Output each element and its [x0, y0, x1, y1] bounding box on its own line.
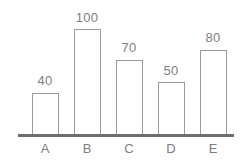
bar-value-c: 70	[109, 41, 149, 54]
bar-e	[200, 50, 227, 135]
x-tick-label-c: C	[109, 142, 149, 155]
plot-area: 40 100 70 50 80 A B C D E	[0, 0, 249, 166]
bar-value-b: 100	[67, 11, 107, 24]
bar-a	[32, 93, 59, 135]
bar-value-a: 40	[25, 74, 65, 87]
bar-chart: 40 100 70 50 80 A B C D E	[0, 0, 249, 166]
bar-c	[116, 60, 143, 135]
bar-value-e: 80	[193, 31, 233, 44]
x-axis-line	[18, 134, 234, 137]
bar-b	[74, 29, 101, 135]
x-tick-label-d: D	[151, 142, 191, 155]
bar-value-d: 50	[151, 64, 191, 77]
x-tick-label-e: E	[193, 142, 233, 155]
x-tick-label-a: A	[25, 142, 65, 155]
bar-d	[158, 82, 185, 135]
x-tick-label-b: B	[67, 142, 107, 155]
